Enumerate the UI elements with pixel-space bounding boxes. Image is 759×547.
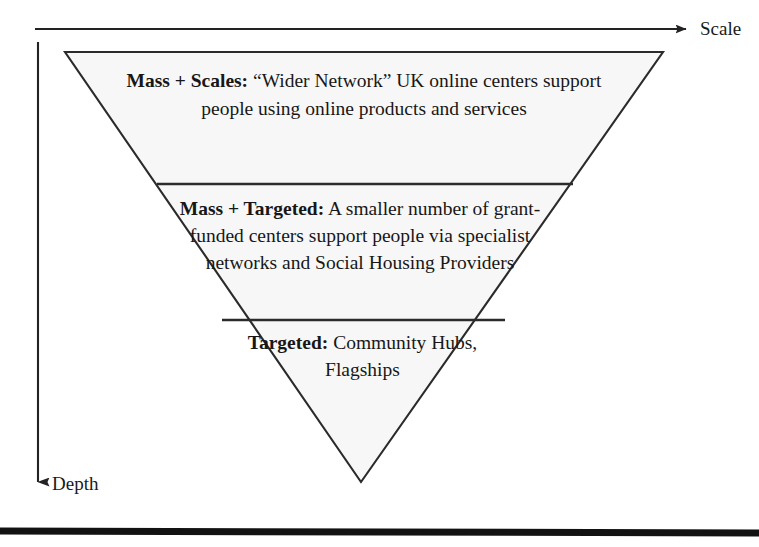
tier-1-body: “Wider Network” UK online centers suppor… (201, 70, 601, 119)
tier-2-lead: Mass + Targeted: (180, 198, 324, 219)
scale-axis-label: Scale (700, 19, 741, 38)
tier-3-text-block: Targeted: Community Hubs, Flagships (220, 329, 505, 383)
tier-3-body: Community Hubs, Flagships (325, 332, 477, 380)
tier-1-lead: Mass + Scales: (127, 70, 249, 91)
tier-3-lead: Targeted: (248, 332, 329, 353)
figure-canvas: Scale Depth Mass + Scales: “Wider Networ… (0, 0, 759, 547)
bottom-rule (0, 531, 759, 533)
tier-2-text-block: Mass + Targeted: A smaller number of gra… (170, 195, 550, 276)
depth-axis-label: Depth (52, 474, 98, 493)
tier-1-text-block: Mass + Scales: “Wider Network” UK online… (108, 67, 620, 123)
